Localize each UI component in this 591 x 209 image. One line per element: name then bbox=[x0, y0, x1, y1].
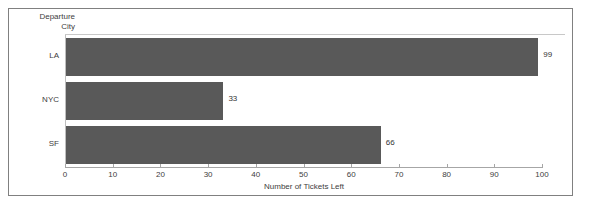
bar-row: LA 99 bbox=[65, 35, 565, 79]
x-axis-title: Number of Tickets Left bbox=[65, 182, 543, 191]
x-tick-mark bbox=[494, 164, 495, 167]
x-tick-label: 60 bbox=[336, 170, 366, 179]
x-tick-label: 0 bbox=[50, 170, 80, 179]
x-tick-mark bbox=[399, 164, 400, 167]
category-label: LA bbox=[9, 51, 59, 60]
bar-value-nyc: 33 bbox=[228, 94, 237, 103]
x-tick-mark bbox=[256, 164, 257, 167]
x-tick-label: 70 bbox=[384, 170, 414, 179]
chart-header: Departure City bbox=[9, 9, 572, 35]
x-tick-label: 10 bbox=[98, 170, 128, 179]
bar-value-sf: 66 bbox=[386, 138, 395, 147]
x-tick-mark bbox=[65, 164, 66, 167]
x-tick-mark bbox=[208, 164, 209, 167]
y-axis-title: Departure City bbox=[13, 12, 75, 32]
category-label: NYC bbox=[9, 95, 59, 104]
plot-area: LA 99 NYC 33 SF 66 bbox=[65, 35, 565, 167]
x-tick-label: 30 bbox=[193, 170, 223, 179]
x-axis: 0 10 20 30 40 50 60 70 80 90 100 Number … bbox=[65, 167, 565, 197]
bar-row: NYC 33 bbox=[65, 79, 565, 123]
x-tick-mark bbox=[160, 164, 161, 167]
x-tick-label: 50 bbox=[289, 170, 319, 179]
bar-row: SF 66 bbox=[65, 123, 565, 167]
x-tick-mark bbox=[113, 164, 114, 167]
chart-frame: Departure City LA 99 NYC 33 SF 66 bbox=[8, 8, 573, 196]
x-tick-mark bbox=[351, 164, 352, 167]
x-tick-mark bbox=[447, 164, 448, 167]
bar-value-la: 99 bbox=[543, 50, 552, 59]
bar-la[interactable] bbox=[66, 38, 538, 76]
x-tick-mark bbox=[542, 164, 543, 167]
x-tick-label: 20 bbox=[145, 170, 175, 179]
x-tick-label: 80 bbox=[432, 170, 462, 179]
x-axis-line bbox=[65, 167, 543, 168]
bar-sf[interactable] bbox=[66, 126, 381, 164]
x-tick-label: 100 bbox=[527, 170, 557, 179]
x-tick-label: 40 bbox=[241, 170, 271, 179]
x-tick-label: 90 bbox=[479, 170, 509, 179]
bar-nyc[interactable] bbox=[66, 82, 223, 120]
x-tick-mark bbox=[304, 164, 305, 167]
category-label: SF bbox=[9, 139, 59, 148]
